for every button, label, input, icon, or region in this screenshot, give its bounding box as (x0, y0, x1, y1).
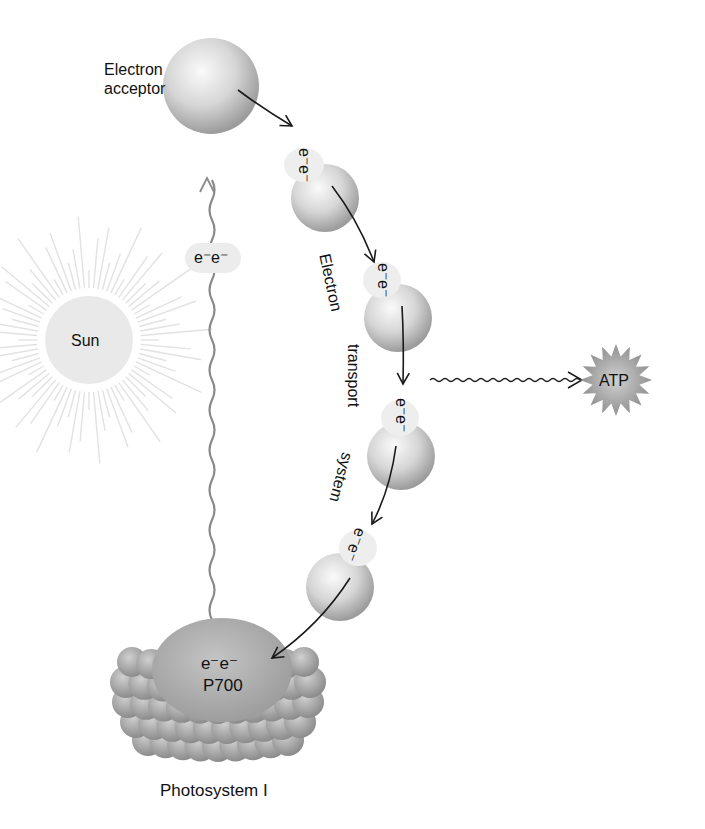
ets-label-transport: transport (344, 344, 362, 407)
photosystem-diagram (0, 0, 705, 829)
carrier-3-electrons: e⁻e⁻ (392, 398, 411, 432)
sun-label: Sun (71, 331, 99, 350)
p700-label: P700 (203, 676, 243, 695)
electron-acceptor-label: Electron acceptor (104, 60, 165, 98)
p700-electrons-label: e⁻e⁻ (201, 654, 238, 673)
photosystem-label: Photosystem I (160, 781, 268, 800)
atp-wave-arrow (430, 379, 580, 382)
carrier-1-electrons: e⁻e⁻ (295, 148, 314, 182)
excited-electrons-label: e⁻e⁻ (194, 248, 228, 267)
carrier-2-electrons: e⁻e⁻ (374, 263, 393, 297)
carrier-4 (306, 530, 377, 621)
atp-label: ATP (599, 371, 629, 390)
electron-acceptor-sphere (163, 38, 259, 134)
